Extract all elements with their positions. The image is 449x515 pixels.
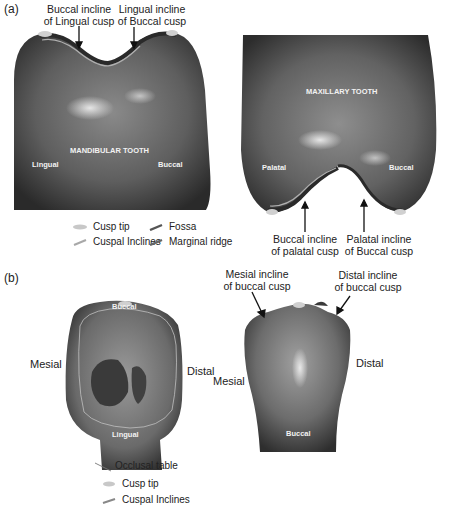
mandibular-tooth-shape — [14, 30, 211, 210]
callout-line1: Palatal incline — [339, 233, 419, 245]
legend-label: Cusp tip — [93, 221, 130, 232]
callout-line2: of Buccal cusp — [113, 15, 191, 27]
maxillary-buccal-label: Buccal — [389, 163, 414, 172]
tooth-illustrations — [0, 0, 449, 515]
maxillary-tooth-title: MAXILLARY TOOTH — [306, 87, 378, 96]
fossa-icon — [148, 223, 164, 231]
cuspal-inclines-icon — [72, 238, 88, 246]
panel-b-label: (b) — [4, 271, 19, 285]
cusp-tip-icon — [72, 223, 88, 231]
callout-line2: of buccal cusp — [329, 281, 407, 293]
callout-distal-incline-buccal-cusp: Distal incline of buccal cusp — [329, 269, 407, 293]
legend-label: Occlusal table — [115, 460, 178, 471]
occlusal-buccal-label: Buccal — [112, 302, 137, 311]
callout-line1: Distal incline — [329, 269, 407, 281]
callout-line1: Buccal incline — [40, 3, 118, 15]
callout-line1: Lingual incline — [113, 3, 191, 15]
occlusal-lingual-label: Lingual — [112, 430, 139, 439]
occlusal-view-tooth-shape — [66, 301, 183, 470]
legend-label: Cuspal Inclines — [122, 494, 190, 505]
callout-line1: Mesial incline — [218, 268, 296, 280]
mandibular-buccal-label: Buccal — [158, 160, 183, 169]
legend-a-fossa: Fossa — [148, 221, 196, 232]
legend-a-marginal-ridge: Marginal ridge — [148, 236, 232, 247]
legend-b-occlusal-table: Occlusal table — [94, 460, 178, 471]
legend-a-cusp-tip: Cusp tip — [72, 221, 130, 232]
callout-buccal-incline-palatal-cusp: Buccal incline of palatal cusp — [268, 233, 342, 257]
maxillary-palatal-label: Palatal — [262, 163, 286, 172]
legend-label: Cusp tip — [122, 478, 159, 489]
buccal-view-mesial-label: Mesial — [213, 375, 245, 387]
maxillary-tooth-shape — [241, 35, 436, 215]
occlusal-distal-label: Distal — [187, 365, 215, 377]
marginal-ridge-icon — [148, 238, 164, 246]
legend-label: Fossa — [169, 221, 196, 232]
cusp-tip-icon — [101, 480, 117, 488]
callout-line2: of Buccal cusp — [339, 245, 419, 257]
mandibular-lingual-label: Lingual — [32, 160, 59, 169]
buccal-view-buccal-label: Buccal — [286, 429, 311, 438]
callout-line2: of palatal cusp — [268, 245, 342, 257]
callout-lingual-incline-buccal-cusp: Lingual incline of Buccal cusp — [113, 3, 191, 27]
cuspal-inclines-icon — [101, 496, 117, 504]
callout-line2: of Lingual cusp — [40, 15, 118, 27]
callout-line1: Buccal incline — [268, 233, 342, 245]
occlusal-table-icon — [94, 462, 110, 470]
legend-b-cusp-tip: Cusp tip — [101, 478, 159, 489]
callout-line2: of buccal cusp — [218, 280, 296, 292]
callout-buccal-incline-lingual-cusp: Buccal incline of Lingual cusp — [40, 3, 118, 27]
mandibular-tooth-title: MANDIBULAR TOOTH — [70, 146, 149, 155]
occlusal-mesial-label: Mesial — [30, 358, 62, 370]
callout-mesial-incline-buccal-cusp: Mesial incline of buccal cusp — [218, 268, 296, 292]
buccal-view-distal-label: Distal — [356, 357, 384, 369]
callout-palatal-incline-buccal-cusp: Palatal incline of Buccal cusp — [339, 233, 419, 257]
panel-a-label: (a) — [4, 2, 19, 16]
legend-label: Marginal ridge — [169, 236, 232, 247]
legend-b-cuspal-inclines: Cuspal Inclines — [101, 494, 190, 505]
